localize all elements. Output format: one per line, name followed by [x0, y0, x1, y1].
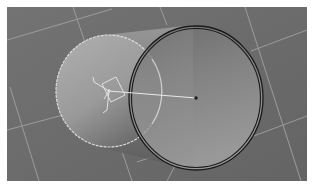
center-point[interactable]: [194, 96, 198, 100]
gizmo-origin: [108, 90, 110, 92]
viewport-canvas[interactable]: [7, 7, 307, 181]
3d-viewport[interactable]: [7, 7, 307, 181]
